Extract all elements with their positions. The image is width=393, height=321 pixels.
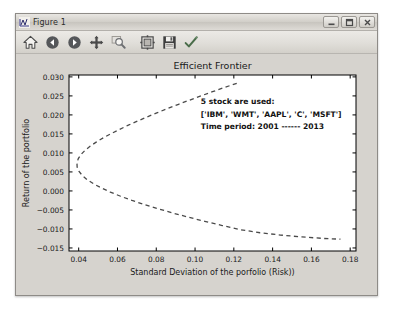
window-title: Figure 1 [33, 18, 66, 27]
maximize-button[interactable] [341, 16, 357, 28]
y-tick-label: 0.005 [43, 168, 64, 177]
annotation-stock-count: 5 stock are used: [201, 97, 275, 106]
pan-button[interactable] [88, 34, 105, 51]
save-button[interactable] [161, 34, 178, 51]
home-icon [23, 35, 38, 50]
forward-button[interactable] [66, 34, 83, 51]
chart-title: Efficient Frontier [173, 60, 251, 71]
floppy-save-icon [162, 35, 177, 50]
edit-check-icon [184, 35, 199, 50]
y-tick-label: 0.020 [43, 111, 64, 120]
window-titlebar[interactable]: Figure 1 [16, 14, 377, 31]
x-axis-label: Standard Deviation of the porfolio (Risk… [130, 268, 294, 277]
y-tick-label: −0.005 [37, 206, 65, 215]
window-controls [323, 16, 375, 28]
figure-canvas[interactable]: 0.040.060.080.100.120.140.160.18 0.0300.… [16, 54, 377, 294]
x-tick-label: 0.08 [148, 255, 165, 264]
x-tick-label: 0.04 [70, 255, 87, 264]
x-tick-label: 0.18 [342, 255, 359, 264]
y-tick-label: −0.015 [37, 244, 65, 253]
zoom-button[interactable] [110, 34, 127, 51]
x-tick-label: 0.12 [226, 255, 242, 264]
configure-subplots-button[interactable] [139, 34, 156, 51]
matplotlib-navigation-toolbar [16, 31, 377, 54]
minimize-button[interactable] [323, 16, 339, 28]
figure-window: Figure 1 [15, 13, 378, 296]
annotation-ticker-list: ['IBM', 'WMT', 'AAPL', 'C', 'MSFT'] [201, 110, 342, 119]
y-tick-label: −0.010 [37, 225, 65, 234]
y-tick-label: 0.030 [43, 73, 64, 82]
y-axis-label: Return of the portfolio [22, 119, 31, 208]
x-tick-label: 0.14 [264, 255, 281, 264]
y-tick-label: 0.000 [43, 187, 64, 196]
edit-parameters-button[interactable] [183, 34, 200, 51]
back-button[interactable] [44, 34, 61, 51]
y-tick-label: 0.010 [43, 149, 64, 158]
matplotlib-icon [19, 17, 30, 28]
y-tick-label: 0.015 [43, 130, 64, 139]
efficient-frontier-plot: 0.040.060.080.100.120.140.160.18 0.0300.… [16, 54, 377, 294]
x-tick-label: 0.16 [303, 255, 320, 264]
back-arrow-icon [45, 35, 60, 50]
annotation-time-period: Time period: 2001 ------ 2013 [201, 122, 324, 131]
y-tick-label: 0.025 [43, 92, 64, 101]
zoom-rect-icon [111, 35, 126, 50]
forward-arrow-icon [67, 35, 82, 50]
x-tick-label: 0.10 [187, 255, 204, 264]
home-button[interactable] [22, 34, 39, 51]
x-tick-label: 0.06 [109, 255, 126, 264]
subplot-config-icon [140, 35, 155, 50]
pan-move-icon [89, 35, 104, 50]
close-button[interactable] [359, 16, 375, 28]
